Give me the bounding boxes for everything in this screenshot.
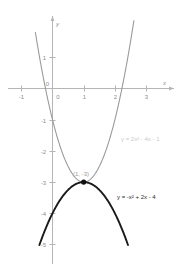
coordinate-plane-svg: -1 0 1 2 3 1 0 -1 -2 -3 -4 -5 x y (1, -3… xyxy=(0,0,182,272)
vertex-point-marker xyxy=(81,180,86,185)
y-tick-label-neg1: -1 xyxy=(41,118,47,124)
y-tick-label-neg2: -2 xyxy=(41,149,47,155)
y-tick-label-neg5: -5 xyxy=(41,242,47,248)
x-axis-arrow xyxy=(169,87,174,91)
graph-canvas: -1 0 1 2 3 1 0 -1 -2 -3 -4 -5 x y (1, -3… xyxy=(0,0,182,272)
x-axis-label: x xyxy=(162,80,167,86)
y-axis-label: y xyxy=(55,21,60,27)
y-tick-label-neg4: -4 xyxy=(41,211,47,217)
x-tick-label-1: 1 xyxy=(83,94,87,100)
y-tick-label-0: 0 xyxy=(46,81,50,87)
y-axis-arrow xyxy=(51,16,55,21)
x-tick-label-2: 2 xyxy=(114,94,118,100)
y-tick-label-1: 1 xyxy=(43,55,47,61)
vertex-point-label: (1, -3) xyxy=(73,171,89,177)
equation-label-gray: y = 2x² - 4x - 1 xyxy=(121,136,160,142)
x-tick-label-3: 3 xyxy=(145,94,149,100)
x-tick-label-0: 0 xyxy=(56,94,60,100)
curve-gray-parabola xyxy=(35,20,134,182)
x-tick-label-neg1: -1 xyxy=(19,94,25,100)
y-tick-label-neg3: -3 xyxy=(41,180,47,186)
equation-label-black: y = -x² + 2x - 4 xyxy=(117,194,156,200)
